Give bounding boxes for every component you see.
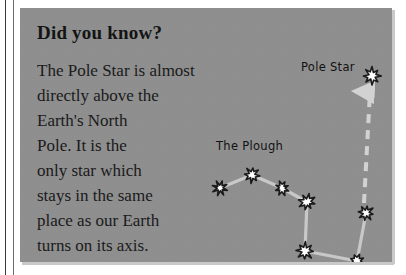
- panel-shadow-bottom: [22, 262, 394, 265]
- star-plough-star-5: [296, 242, 313, 259]
- star-layer: [212, 67, 381, 262]
- star-plough-star-1: [212, 181, 227, 196]
- star-pole-star: [363, 67, 381, 85]
- pointer-dashed-line: [364, 92, 370, 203]
- constellation-link: [305, 251, 357, 261]
- pole-star-pointer-line: [364, 92, 370, 203]
- star-plough-star-3: [276, 181, 289, 196]
- page: Did you know? The Pole Star is almost di…: [0, 0, 406, 275]
- constellation-links: [220, 175, 366, 261]
- star-chart: [20, 8, 392, 262]
- star-plough-star-7: [358, 206, 373, 220]
- page-margin-rule-secondary: [13, 0, 14, 275]
- label-pole-star: Pole Star: [301, 60, 355, 74]
- page-margin-rule: [5, 0, 6, 275]
- did-you-know-panel: Did you know? The Pole Star is almost di…: [20, 8, 392, 262]
- star-plough-star-2: [245, 168, 260, 183]
- panel-shadow-right: [392, 10, 395, 264]
- star-plough-star-4: [298, 194, 314, 210]
- label-the-plough: The Plough: [216, 139, 283, 153]
